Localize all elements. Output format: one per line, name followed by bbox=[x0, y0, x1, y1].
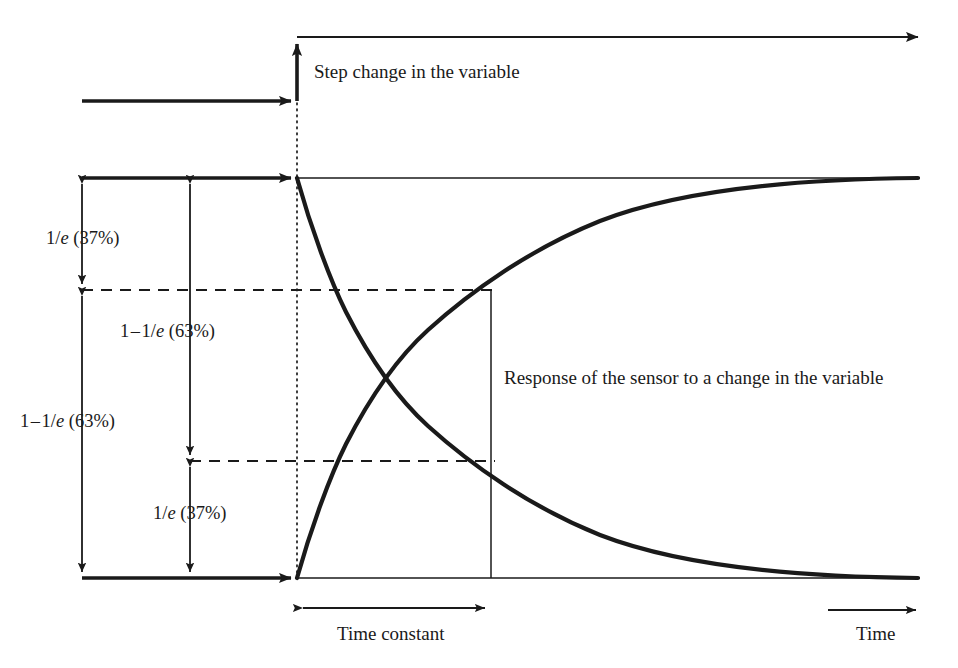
frac-numerator-denominator: 1/ bbox=[142, 321, 156, 341]
frac-numerator-denominator: 1/ bbox=[42, 411, 56, 431]
euler-symbol: e bbox=[56, 411, 64, 431]
time-axis-label: Time bbox=[856, 624, 895, 643]
minus-symbol: – bbox=[29, 411, 41, 431]
frac-numerator-denominator: 1/ bbox=[46, 228, 60, 248]
percent-value: (37%) bbox=[73, 228, 119, 248]
dimension-label-upper-outer: 1/e (37%) bbox=[46, 229, 119, 248]
euler-symbol: e bbox=[60, 228, 68, 248]
minus-symbol: – bbox=[129, 321, 141, 341]
percent-value: (37%) bbox=[180, 503, 226, 523]
one-symbol: 1 bbox=[20, 411, 29, 431]
dimension-label-lower-inner: 1/e (37%) bbox=[153, 504, 226, 523]
euler-symbol: e bbox=[156, 321, 164, 341]
response-label: Response of the sensor to a change in th… bbox=[504, 368, 883, 387]
sensor-response-diagram: Step change in the variable Response of … bbox=[0, 0, 958, 668]
time-constant-label: Time constant bbox=[337, 624, 445, 643]
euler-symbol: e bbox=[167, 503, 175, 523]
one-symbol: 1 bbox=[120, 321, 129, 341]
step-change-label: Step change in the variable bbox=[314, 62, 520, 81]
percent-value: (63%) bbox=[169, 321, 215, 341]
percent-value: (63%) bbox=[69, 411, 115, 431]
dimension-label-upper-inner: 1–1/e (63%) bbox=[120, 322, 215, 341]
dimension-label-lower-outer: 1–1/e (63%) bbox=[20, 412, 115, 431]
frac-numerator-denominator: 1/ bbox=[153, 503, 167, 523]
